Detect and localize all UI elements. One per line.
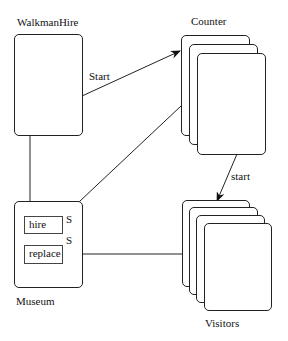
replace-port-marker: S <box>66 234 72 246</box>
start-visitors-label: start <box>231 170 250 182</box>
start-connection-label: Start <box>89 70 110 82</box>
walkmanhire-label: WalkmanHire <box>17 16 78 28</box>
museum-label: Museum <box>16 295 55 307</box>
museum-component[interactable]: hire S replace S <box>14 201 83 288</box>
hire-port-marker: S <box>66 213 72 225</box>
counter-label: Counter <box>191 15 226 27</box>
visitors-instance-4[interactable] <box>204 223 272 311</box>
replace-port[interactable]: replace <box>24 245 63 264</box>
counter-instance-3[interactable] <box>197 53 266 155</box>
visitors-label: Visitors <box>205 317 239 329</box>
hire-port[interactable]: hire <box>24 216 63 234</box>
walkmanhire-component[interactable] <box>14 34 83 136</box>
